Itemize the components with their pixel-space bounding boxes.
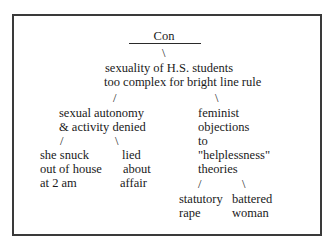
right-node-line-3: to bbox=[198, 134, 208, 148]
leaf-battered-line-2: woman bbox=[232, 206, 269, 220]
connector-left-a: / bbox=[60, 134, 63, 148]
leaf-snuck-line-3: at 2 am bbox=[40, 176, 77, 190]
connector-right-a: / bbox=[198, 177, 201, 191]
leaf-statutory-line-2: rape bbox=[179, 206, 201, 220]
leaf-snuck-line-2: out of house bbox=[40, 162, 102, 176]
right-node-line-1: feminist bbox=[198, 106, 239, 120]
connector-root-right: \ bbox=[215, 91, 218, 105]
left-node-line-1: sexual autonomy bbox=[59, 106, 144, 120]
leaf-battered-line-1: battered bbox=[232, 192, 272, 206]
root-node-line-2: too complex for bright line rule bbox=[104, 75, 261, 89]
right-node-line-5: theories bbox=[198, 162, 238, 176]
connector-left-b: \ bbox=[115, 134, 118, 148]
connector-right-b: \ bbox=[242, 177, 245, 191]
right-node-line-2: objections bbox=[198, 120, 249, 134]
leaf-statutory-line-1: statutory bbox=[179, 192, 223, 206]
title-underline bbox=[129, 43, 201, 44]
connector-root-left: / bbox=[113, 91, 116, 105]
diagram-title: Con bbox=[154, 29, 175, 43]
right-node-line-4: "helplessness" bbox=[198, 148, 270, 162]
leaf-lied-line-1: lied bbox=[122, 148, 141, 162]
connector-title-root: \ bbox=[162, 46, 165, 60]
leaf-lied-line-2: about bbox=[123, 162, 151, 176]
left-node-line-2: & activity denied bbox=[59, 120, 146, 134]
leaf-snuck-line-1: she snuck bbox=[40, 148, 89, 162]
root-node-line-1: sexuality of H.S. students bbox=[105, 61, 233, 75]
leaf-lied-line-3: affair bbox=[120, 176, 147, 190]
